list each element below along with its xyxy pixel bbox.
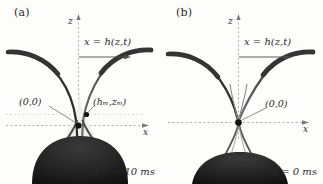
panel-b-graphic [162, 0, 323, 184]
panel-a-graphic [0, 0, 161, 184]
liquid-arm-right [82, 51, 150, 137]
z-axis-arrowhead [236, 14, 240, 20]
panel-b-x-axis-label: x [303, 124, 308, 134]
liquid-arm-left-thick [168, 54, 218, 77]
panel-a-time-label: t = − 10 ms [94, 166, 155, 177]
panel-b-z-axis-label: z [228, 16, 233, 26]
lower-cone-left [225, 125, 238, 155]
panel-b-equation-label: x = h(z,t) [244, 36, 291, 47]
panel-a-label: (a) [14, 6, 30, 19]
z-axis-arrowhead [76, 14, 80, 20]
liquid-arm-left [8, 53, 77, 137]
figure-container: (a) z x x = h(z,t) (0,0) (hₘ,zₘ) t = − 1… [0, 0, 323, 184]
panel-a-z-axis-label: z [68, 16, 73, 26]
origin-point-marker [75, 122, 81, 128]
panel-a: (a) z x x = h(z,t) (0,0) (hₘ,zₘ) t = − 1… [0, 0, 161, 184]
panel-a-origin-label: (0,0) [19, 96, 42, 107]
panel-a-neck-minimum-label: (hₘ,zₘ) [93, 96, 126, 107]
panel-b: (b) z x x = h(z,t) (0,0) t = 0 ms [162, 0, 323, 184]
origin-point-marker [235, 119, 242, 126]
liquid-arm-right-thick [101, 50, 151, 73]
liquid-arm-right-thick [263, 52, 313, 75]
cusp-thread-right [239, 84, 247, 120]
lower-cone-right [239, 125, 252, 155]
origin-leader-line [242, 108, 266, 120]
liquid-arm-left-thick [8, 52, 58, 74]
panel-b-time-label: t = 0 ms [274, 166, 317, 177]
panel-b-origin-label: (0,0) [265, 98, 288, 109]
panel-a-equation-label: x = h(z,t) [84, 36, 131, 47]
panel-a-x-axis-label: x [143, 127, 148, 137]
panel-b-label: (b) [176, 6, 192, 19]
